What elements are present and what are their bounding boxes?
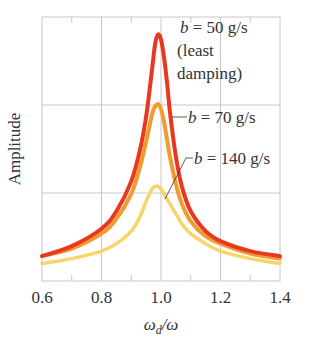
label-b50: b = 50 g/s — [180, 18, 248, 37]
x-tick-label: 1.4 — [269, 288, 291, 307]
x-axis-label: ωd/ω — [144, 315, 179, 337]
resonance-chart: 0.60.81.01.21.4 Amplitude ωd/ω b = 50 g/… — [0, 0, 310, 352]
annotation-b70: b = 70 g/s — [172, 108, 256, 127]
label-b50-line2: (least — [177, 41, 214, 60]
label-b70: b = 70 g/s — [188, 108, 256, 127]
x-tick-label: 1.2 — [210, 288, 231, 307]
x-tick-label: 0.6 — [31, 288, 52, 307]
x-tick-label: 0.8 — [91, 288, 112, 307]
annotation-b50: b = 50 g/s (least damping) — [177, 18, 248, 83]
label-b50-line3: damping) — [177, 64, 242, 83]
x-tick-label: 1.0 — [150, 288, 171, 307]
x-tick-labels: 0.60.81.01.21.4 — [31, 288, 291, 307]
label-b140: b = 140 g/s — [194, 149, 270, 168]
y-axis-label: Amplitude — [5, 113, 24, 186]
